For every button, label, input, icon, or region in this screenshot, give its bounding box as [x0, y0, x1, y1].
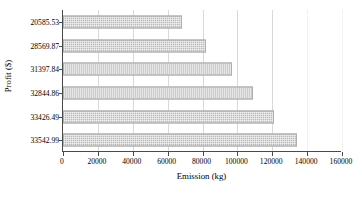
y-axis-tick-label: 32844.86	[15, 88, 59, 97]
y-axis-tick-labels: 20585.5328569.8731397.8432844.8633426.49…	[16, 10, 62, 152]
bar	[63, 15, 182, 28]
x-axis-tick-label: 80000	[192, 157, 211, 166]
y-axis-title-label: Profit ($)	[3, 60, 13, 92]
x-axis-tick	[203, 152, 204, 156]
y-axis-tick-label: 20585.53	[15, 17, 59, 26]
y-axis-tick-label: 31397.84	[15, 65, 59, 74]
y-axis-tick-label: 28569.87	[15, 41, 59, 50]
y-axis-tick-label: 33542.99	[15, 136, 59, 145]
x-axis-tick	[63, 152, 64, 156]
x-axis-title-label: Emission (kg)	[177, 171, 227, 181]
x-axis-tick	[272, 152, 273, 156]
y-axis-tick	[59, 22, 63, 23]
x-axis-tick-label: 140000	[295, 157, 318, 166]
x-axis-tick	[133, 152, 134, 156]
x-axis-title: Emission (kg)	[62, 171, 341, 181]
x-axis-tick-label: 120000	[260, 157, 283, 166]
x-axis-tick	[342, 152, 343, 156]
x-axis-tick	[307, 152, 308, 156]
y-axis-tick	[59, 117, 63, 118]
x-axis-tick-label: 160000	[330, 157, 353, 166]
x-axis-tick-label: 0	[60, 157, 64, 166]
x-axis-tick-label: 40000	[122, 157, 141, 166]
bar	[63, 39, 206, 52]
horizontal-bar-chart: Profit ($) 20585.5328569.8731397.8432844…	[0, 0, 362, 197]
bar	[63, 110, 274, 123]
x-axis-tick-label: 20000	[87, 157, 106, 166]
x-axis-tick-label: 100000	[225, 157, 248, 166]
x-axis-tick	[168, 152, 169, 156]
gridline	[342, 10, 343, 151]
bar	[63, 134, 297, 147]
bar	[63, 63, 232, 76]
x-axis-tick	[237, 152, 238, 156]
x-axis-tick-label: 60000	[157, 157, 176, 166]
y-axis-tick-label: 33426.49	[15, 112, 59, 121]
y-axis-tick	[59, 46, 63, 47]
x-axis-tick-labels: 0200004000060000800001000001200001400001…	[62, 157, 352, 171]
plot-area	[62, 10, 341, 152]
bar	[63, 86, 253, 99]
y-axis-tick	[59, 93, 63, 94]
y-axis-tick	[59, 140, 63, 141]
y-axis-tick	[59, 69, 63, 70]
y-axis-title: Profit ($)	[0, 0, 16, 152]
x-axis-tick	[98, 152, 99, 156]
bars-layer	[63, 10, 341, 151]
